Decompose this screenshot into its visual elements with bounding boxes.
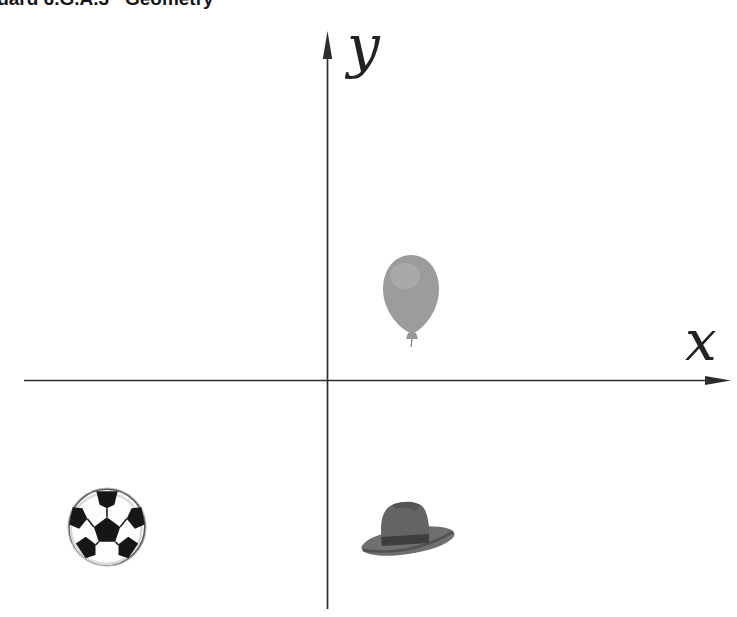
balloon-string [411,339,412,347]
balloon-image [379,253,443,349]
y-axis-label: y [347,17,380,75]
balloon-knot [406,333,418,339]
hat-image [358,495,458,561]
x-axis-arrowhead-icon [705,376,731,385]
worksheet-page: Standard 6.G.A.3 Geometry y x [0,0,737,617]
y-axis-arrowhead-icon [323,31,332,59]
x-axis-label: x [685,313,717,369]
balloon-highlight [390,263,420,289]
soccer-ball-image [66,486,148,568]
